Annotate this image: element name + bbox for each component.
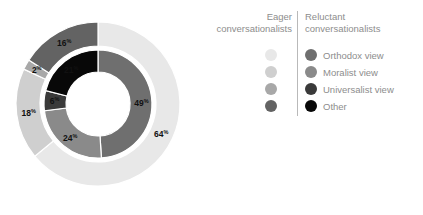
legend-rows: Orthodox viewMoralist viewUniversalist v… — [212, 47, 423, 115]
donut-chart: 64%18%2%16% 49%24%6%21% — [0, 0, 210, 215]
legend-swatch-eager — [265, 66, 277, 78]
outer-ring-eager — [16, 22, 180, 186]
legend-row: Other — [212, 98, 423, 115]
legend-swatch-reluctant — [305, 100, 317, 112]
legend-row: Universalist view — [212, 81, 423, 98]
chart-figure: 64%18%2%16% 49%24%6%21% Eager conversati… — [0, 0, 423, 215]
legend-swatch-eager — [265, 83, 277, 95]
legend-row: Orthodox view — [212, 47, 423, 64]
legend-swatch-reluctant — [305, 83, 317, 95]
legend-swatch-eager — [265, 100, 277, 112]
legend-header-eager-line2: conversationalists — [212, 23, 292, 35]
legend-header-reluctant-line2: conversationalists — [305, 23, 423, 35]
legend-swatch-reluctant — [305, 66, 317, 78]
legend-header-reluctant-line1: Reluctant — [305, 11, 423, 23]
legend-row: Moralist view — [212, 64, 423, 81]
legend-swatch-reluctant — [305, 49, 317, 61]
legend-item-label: Orthodox view — [323, 49, 384, 62]
legend-header-eager-line1: Eager — [212, 11, 292, 23]
legend-headers: Eager conversationalists Reluctant conve… — [212, 11, 423, 45]
legend-item-label: Moralist view — [323, 66, 378, 79]
legend: Eager conversationalists Reluctant conve… — [212, 0, 423, 215]
legend-swatch-eager — [265, 49, 277, 61]
legend-item-label: Universalist view — [323, 83, 394, 96]
legend-header-eager: Eager conversationalists — [212, 11, 292, 35]
legend-item-label: Other — [323, 100, 347, 113]
legend-header-reluctant: Reluctant conversationalists — [305, 11, 423, 35]
donut-chart-svg: 64%18%2%16% 49%24%6%21% — [0, 0, 210, 215]
